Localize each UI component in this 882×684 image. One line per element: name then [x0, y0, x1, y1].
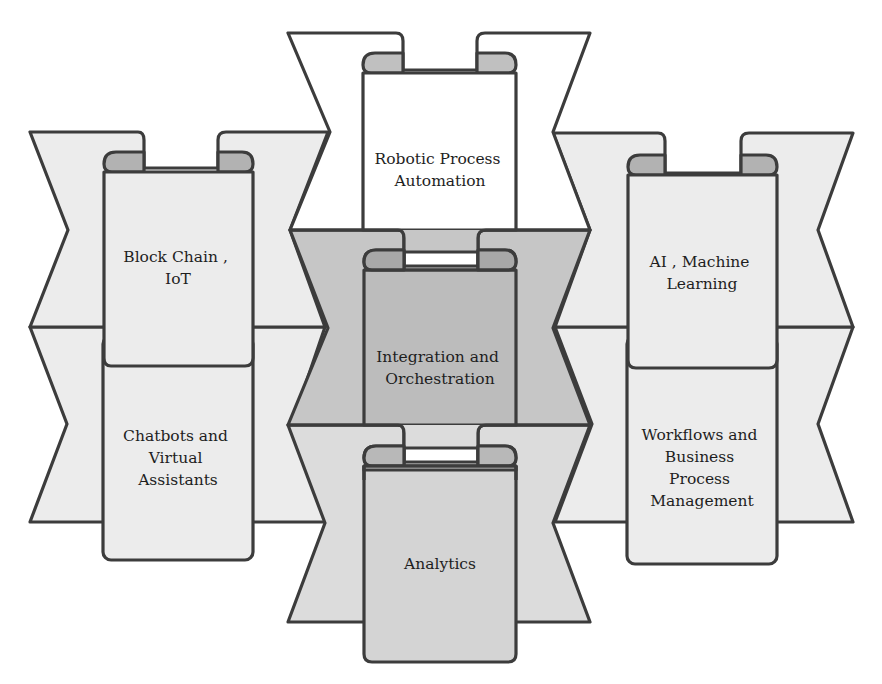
banner-analytics: [288, 425, 590, 662]
card-chatbots: [103, 336, 253, 560]
curl-right-icon: [477, 53, 516, 73]
curl-right-icon: [478, 446, 516, 466]
curl-left-icon: [363, 53, 403, 73]
curl-right-icon: [478, 250, 516, 270]
card-block-chain: [104, 172, 253, 366]
curl-left-icon: [364, 446, 404, 466]
label-analytics: Analytics: [403, 555, 476, 573]
curl-right-icon: [218, 152, 253, 172]
curl-left-icon: [364, 250, 404, 270]
curl-left-icon: [628, 155, 665, 175]
curl-right-icon: [741, 155, 777, 175]
card-ai-ml: [628, 175, 777, 368]
diagram-canvas: Block Chain , IoT Chatbots and Virtual A…: [0, 0, 882, 684]
curl-left-icon: [104, 152, 144, 172]
